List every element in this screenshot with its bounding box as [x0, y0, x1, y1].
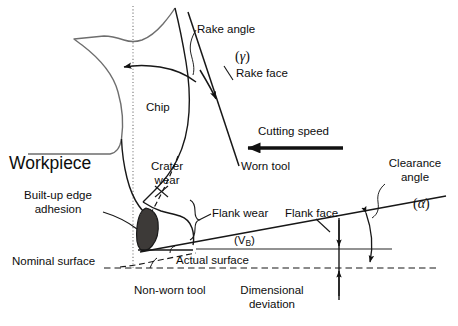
workpiece-outline [28, 8, 175, 154]
flank-wear-brace [190, 200, 199, 240]
label-rake-angle: Rake angle [197, 23, 255, 36]
paren-close: ) [245, 49, 250, 64]
label-dimensional-deviation-line2: deviation [222, 298, 322, 311]
label-flank-wear: Flank wear [212, 207, 268, 220]
paren-close-alpha: ) [425, 196, 430, 211]
label-rake-face: Rake face [236, 67, 288, 80]
label-crater-wear-line1: Crater [140, 160, 194, 173]
label-clearance-angle-line2: angle [376, 171, 454, 184]
label-clearance-angle-line1: Clearance [376, 157, 454, 170]
label-built-up-edge-line2: adhesion [14, 203, 102, 216]
label-actual-surface: Actual surface [176, 254, 249, 267]
label-nominal-surface: Nominal surface [12, 255, 95, 268]
non-worn-tool-leader [150, 258, 157, 268]
chip-flow-arrow [124, 66, 196, 83]
label-crater-wear-line2: wear [140, 174, 194, 187]
paren-close-vb: ) [251, 234, 255, 246]
built-up-edge-shape [137, 208, 159, 251]
label-non-worn-tool: Non-worn tool [134, 284, 206, 297]
alpha-symbol: α [418, 196, 425, 211]
flank-face-leader [316, 219, 330, 232]
rake-angle-leader [190, 30, 196, 75]
label-workpiece: Workpiece [9, 154, 91, 173]
label-cutting-speed: Cutting speed [258, 125, 329, 138]
label-built-up-edge-line1: Built-up edge [14, 189, 102, 202]
label-flank-face: Flank face [285, 207, 338, 220]
flank-wear-leader [199, 214, 211, 220]
label-clearance-angle-symbol: (α) [380, 184, 450, 224]
diagram-canvas: Rake angle (γ) Rake face Chip Cutting sp… [0, 0, 458, 326]
label-worn-tool: Worn tool [241, 160, 290, 173]
label-dimensional-deviation-line1: Dimensional [222, 284, 322, 297]
label-chip: Chip [146, 101, 170, 114]
clearance-angle-arc [366, 213, 372, 262]
built-up-edge-leader [103, 212, 137, 229]
